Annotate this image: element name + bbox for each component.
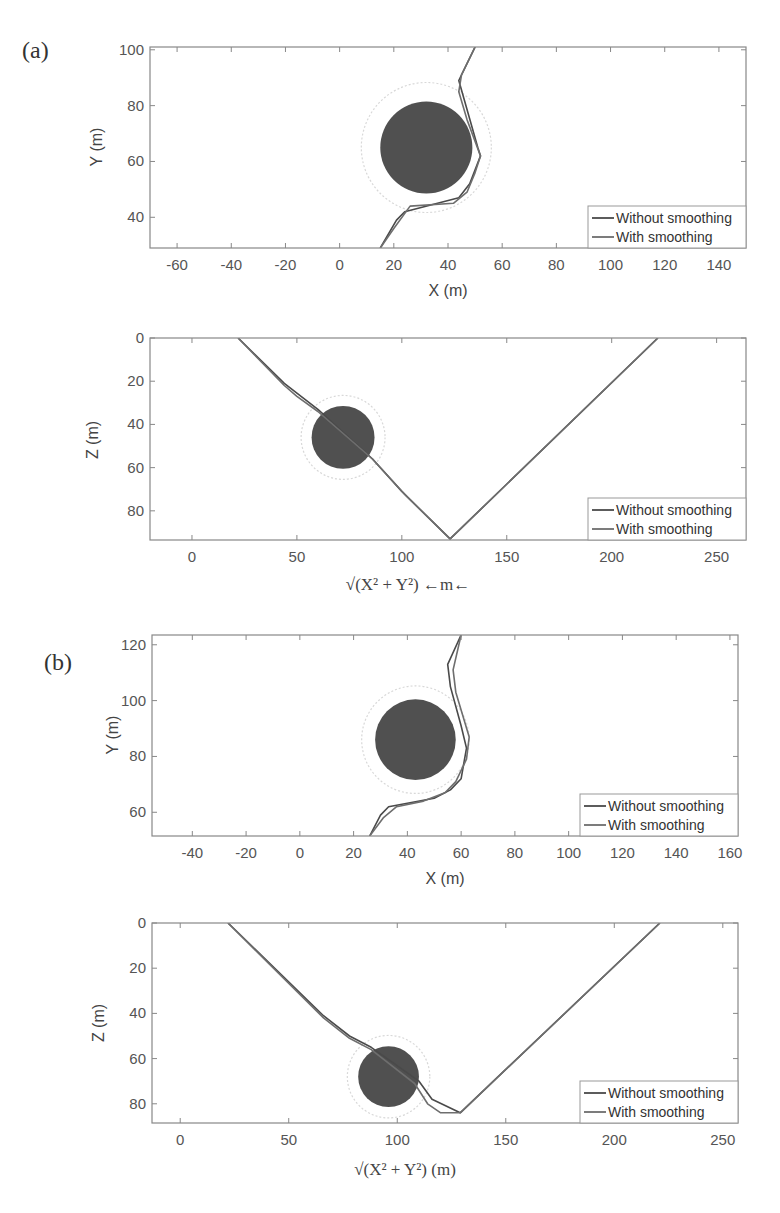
- y-tick-label: 40: [129, 1004, 146, 1021]
- x-tick-label: 120: [610, 844, 635, 861]
- x-tick-label: -40: [220, 256, 242, 273]
- y-tick-label: 100: [121, 692, 146, 709]
- y-tick-label: 80: [129, 747, 146, 764]
- legend: Without smoothingWith smoothing: [588, 206, 746, 248]
- x-tick-label: 40: [399, 844, 416, 861]
- x-axis-label: √(X² + Y²) ←m←: [346, 575, 470, 594]
- y-tick-label: 40: [127, 415, 144, 432]
- axes-a-bottom: 050100150200250020406080Z (m)√(X² + Y²) …: [84, 329, 746, 594]
- obstacle-circle: [358, 1046, 419, 1107]
- y-axis-label: Z (m): [84, 421, 101, 459]
- x-tick-label: 60: [494, 256, 511, 273]
- legend-entry-label: With smoothing: [616, 521, 712, 537]
- x-tick-label: 140: [664, 844, 689, 861]
- legend-entry-label: Without smoothing: [616, 210, 732, 226]
- y-tick-label: 0: [138, 914, 146, 931]
- x-tick-label: 150: [493, 1131, 518, 1148]
- y-axis-label: Y (m): [104, 716, 121, 755]
- x-tick-label: 100: [598, 256, 623, 273]
- x-tick-label: 0: [176, 1131, 184, 1148]
- legend: Without smoothingWith smoothing: [588, 498, 746, 540]
- legend-entry-label: Without smoothing: [608, 1085, 724, 1101]
- legend-entry-label: Without smoothing: [616, 502, 732, 518]
- y-tick-label: 20: [127, 372, 144, 389]
- y-tick-label: 80: [127, 502, 144, 519]
- obstacle-circle: [312, 406, 375, 469]
- y-tick-label: 20: [129, 959, 146, 976]
- y-tick-label: 40: [127, 208, 144, 225]
- y-axis-label: Y (m): [88, 128, 105, 167]
- obstacle-group: [347, 1035, 429, 1117]
- x-tick-label: 100: [385, 1131, 410, 1148]
- x-tick-label: 140: [706, 256, 731, 273]
- y-tick-label: 60: [129, 803, 146, 820]
- y-tick-label: 0: [136, 329, 144, 346]
- x-tick-label: 50: [289, 548, 306, 565]
- x-tick-label: 50: [280, 1131, 297, 1148]
- x-axis-label: X (m): [428, 282, 467, 299]
- x-tick-label: 160: [717, 844, 742, 861]
- x-tick-label: 250: [710, 1131, 735, 1148]
- figure: (a) (b) -60-40-2002040608010012014040608…: [0, 0, 780, 1213]
- legend-entry-label: With smoothing: [608, 1104, 704, 1120]
- legend: Without smoothingWith smoothing: [580, 1081, 738, 1123]
- legend-entry-label: With smoothing: [608, 817, 704, 833]
- x-tick-label: -20: [235, 844, 257, 861]
- x-axis-label: √(X² + Y²) (m): [354, 1160, 456, 1179]
- x-tick-label: 80: [507, 844, 524, 861]
- x-tick-label: 100: [389, 548, 414, 565]
- x-tick-label: 20: [345, 844, 362, 861]
- x-tick-label: 100: [556, 844, 581, 861]
- axes-b-bottom: 050100150200250020406080Z (m)√(X² + Y²) …: [90, 914, 738, 1179]
- obstacle-circle: [380, 101, 472, 193]
- y-axis-label: Z (m): [90, 1004, 107, 1042]
- obstacle-circle: [375, 699, 456, 780]
- y-tick-label: 100: [119, 41, 144, 58]
- y-tick-label: 60: [127, 152, 144, 169]
- panel-label-a: (a): [22, 37, 49, 63]
- x-tick-label: -40: [181, 844, 203, 861]
- x-tick-label: 20: [385, 256, 402, 273]
- x-tick-label: 40: [440, 256, 457, 273]
- x-tick-label: 0: [335, 256, 343, 273]
- x-tick-label: 0: [296, 844, 304, 861]
- x-tick-label: 120: [652, 256, 677, 273]
- x-tick-label: 150: [494, 548, 519, 565]
- obstacle-group: [362, 686, 470, 794]
- obstacle-group: [361, 82, 491, 212]
- legend-entry-label: With smoothing: [616, 229, 712, 245]
- x-tick-label: 250: [704, 548, 729, 565]
- x-tick-label: 200: [599, 548, 624, 565]
- y-tick-label: 80: [127, 97, 144, 114]
- axes-a-top: -60-40-20020406080100120140406080100Y (m…: [88, 41, 746, 299]
- panel-label-b: (b): [44, 649, 72, 675]
- x-tick-label: -60: [166, 256, 188, 273]
- axes-b-top: -40-200204060801001201401606080100120Y (…: [104, 635, 742, 887]
- y-tick-label: 80: [129, 1095, 146, 1112]
- x-tick-label: 80: [548, 256, 565, 273]
- x-axis-label: X (m): [425, 870, 464, 887]
- legend: Without smoothingWith smoothing: [580, 794, 738, 836]
- legend-entry-label: Without smoothing: [608, 798, 724, 814]
- y-tick-label: 120: [121, 636, 146, 653]
- x-tick-label: 200: [602, 1131, 627, 1148]
- x-tick-label: 60: [453, 844, 470, 861]
- x-tick-label: -20: [275, 256, 297, 273]
- y-tick-label: 60: [127, 459, 144, 476]
- y-tick-label: 60: [129, 1050, 146, 1067]
- x-tick-label: 0: [188, 548, 196, 565]
